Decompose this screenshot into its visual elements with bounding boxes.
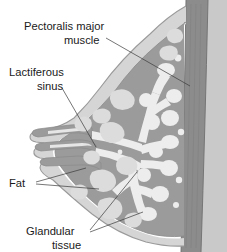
label-lactiferous-sinus-line1: Lactiferous (9, 66, 64, 78)
fat-lobule (159, 45, 177, 60)
lobule (137, 168, 151, 182)
lobule (139, 93, 153, 107)
acinus (173, 202, 179, 208)
lobule (144, 114, 160, 130)
label-fat: Fat (9, 177, 26, 189)
label-glandular-tissue-line1: Glandular (26, 225, 75, 237)
lobule (149, 146, 163, 158)
label-lactiferous-sinus-line2: sinus (37, 80, 64, 92)
lobule (161, 135, 179, 149)
breast-anatomy-diagram: Pectoralis major muscle Lactiferous sinu… (0, 0, 227, 252)
fat-lobule (167, 28, 183, 43)
fat-lobule (124, 212, 141, 227)
label-glandular-tissue-line2: tissue (52, 239, 81, 251)
fat-lobule (116, 157, 137, 175)
lobule (161, 110, 179, 126)
lobule (166, 89, 182, 103)
fat-lobule (74, 116, 91, 131)
figure-canvas: Pectoralis major muscle Lactiferous sinu… (0, 0, 227, 252)
acinus (178, 129, 184, 135)
acinus (176, 177, 182, 183)
fat-lobule (92, 108, 110, 123)
label-pectoralis-major-muscle-line2: muscle (64, 34, 99, 46)
lobule (151, 186, 169, 202)
chest-wall-group (181, 0, 227, 252)
lobule (157, 63, 175, 77)
label-pectoralis-major-muscle-line1: Pectoralis major (24, 20, 104, 32)
acinus (118, 150, 123, 155)
lobule (160, 160, 178, 176)
